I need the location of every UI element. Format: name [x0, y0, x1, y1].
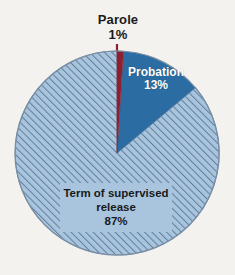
- pie-label-term-name-line1: Term of supervised: [63, 187, 168, 199]
- pie-label-parole-value: 1%: [58, 28, 178, 43]
- pie-label-term-name-line2: release: [62, 200, 170, 214]
- pie-label-term-of-supervised-release: Term of supervised release 87%: [60, 183, 172, 232]
- pie-label-parole: Parole 1%: [58, 13, 178, 42]
- pie-label-probation: Probation 13%: [113, 66, 199, 93]
- pie-label-probation-value: 13%: [113, 79, 199, 92]
- pie-chart: Parole 1% Probation 13% Term of supervis…: [0, 0, 235, 275]
- pie-label-parole-name: Parole: [98, 12, 138, 27]
- pie-label-term-value: 87%: [62, 214, 170, 228]
- pie-label-probation-name: Probation: [128, 65, 184, 79]
